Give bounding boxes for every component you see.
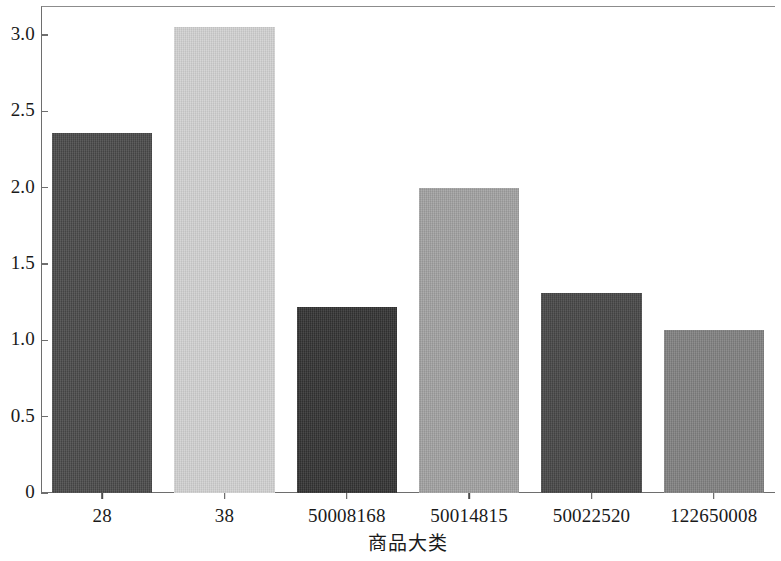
bar <box>52 133 152 493</box>
x-axis-tick-label: 122650008 <box>653 505 775 527</box>
bars-container <box>41 6 775 493</box>
x-axis-tick-label: 38 <box>163 505 285 527</box>
x-axis-tick-mark <box>591 493 593 499</box>
bar <box>297 307 397 493</box>
x-axis-tick-mark <box>468 493 470 499</box>
y-axis-tick-label: 0 <box>25 482 35 502</box>
bar-texture <box>664 330 764 493</box>
bar-texture <box>174 27 274 493</box>
bar <box>174 27 274 493</box>
x-axis-tick-mark <box>101 493 103 499</box>
bar <box>664 330 764 493</box>
bar-texture <box>541 293 641 493</box>
x-axis-tick-label: 50014815 <box>408 505 530 527</box>
bar-texture <box>419 188 519 493</box>
y-axis-tick-label: 1.5 <box>11 253 35 273</box>
bar <box>419 188 519 493</box>
x-axis-tick-label: 28 <box>41 505 163 527</box>
x-axis-tick-mark <box>713 493 715 499</box>
x-axis-tick-mark <box>224 493 226 499</box>
bar-texture <box>52 133 152 493</box>
y-axis-tick-label: 1.0 <box>11 329 35 349</box>
bar <box>541 293 641 493</box>
y-axis-tick-label: 0.5 <box>11 406 35 426</box>
bar-texture <box>297 307 397 493</box>
bar-chart-figure: 00.51.01.52.02.53.0 28385000816850014815… <box>0 0 781 561</box>
x-axis-tick-mark <box>346 493 348 499</box>
y-axis-tick-label: 3.0 <box>11 24 35 44</box>
x-axis-tick-label: 50022520 <box>530 505 652 527</box>
y-axis-tick-label: 2.5 <box>11 100 35 120</box>
y-axis-tick-label: 2.0 <box>11 177 35 197</box>
x-axis-tick-label: 50008168 <box>286 505 408 527</box>
x-axis-title: 商品大类 <box>41 532 775 556</box>
